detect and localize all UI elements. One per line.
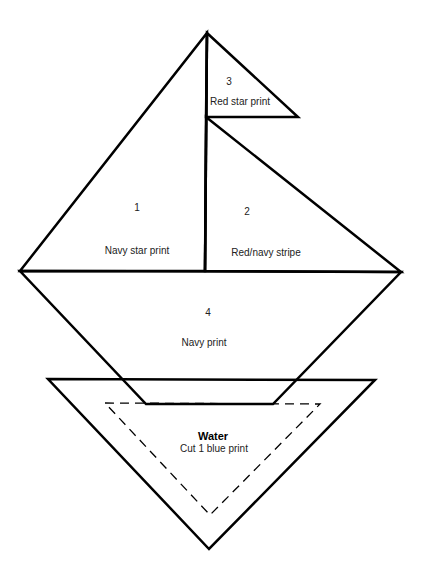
water-seam-dashed-triangle [105,403,320,515]
piece-2-number: 2 [244,207,250,217]
left-sail-piece-1 [20,33,207,271]
sailboat-quilt-diagram [0,0,425,582]
water-title: Water [198,431,228,442]
piece-2-fabric: Red/navy stripe [231,248,300,258]
piece-4-number: 4 [205,308,211,318]
piece-4-fabric: Navy print [181,338,226,348]
piece-1-fabric: Navy star print [105,246,169,256]
piece-1-number: 1 [134,203,140,213]
mast-line [205,33,207,271]
piece-3-number: 3 [226,77,232,87]
water-instruction: Cut 1 blue print [180,444,248,454]
piece-3-fabric: Red star print [210,97,270,107]
